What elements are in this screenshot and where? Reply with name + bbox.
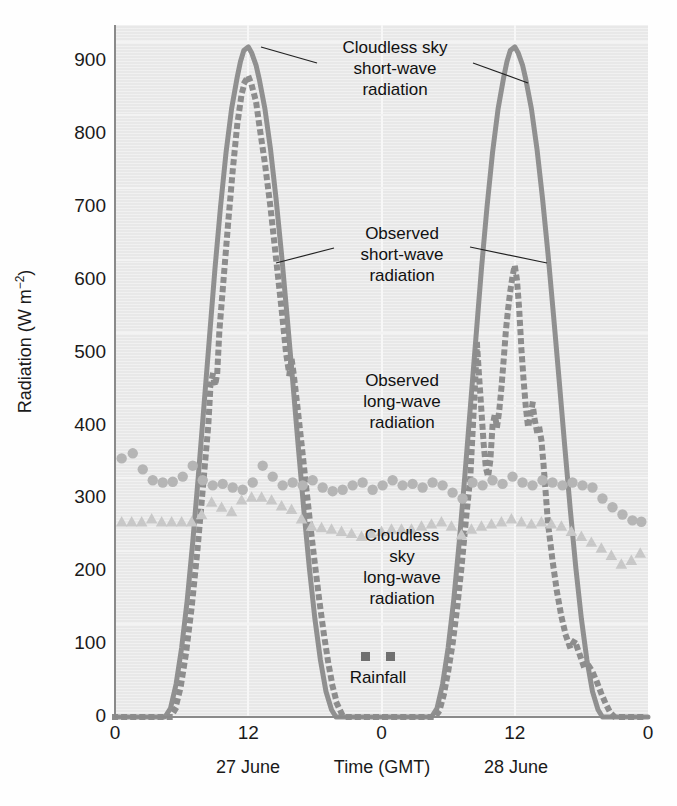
marker-circle-observed-long-wave bbox=[457, 493, 467, 503]
marker-triangle-cloudless-sky-long-wave bbox=[634, 547, 646, 557]
marker-circle-observed-long-wave bbox=[148, 475, 158, 485]
marker-triangle-cloudless-sky-long-wave bbox=[276, 500, 288, 510]
x-tick-0: 0 bbox=[95, 722, 135, 744]
marker-triangle-cloudless-sky-long-wave bbox=[326, 523, 338, 533]
y-tick-400: 400 bbox=[38, 414, 106, 436]
marker-circle-observed-long-wave bbox=[138, 464, 148, 474]
y-axis-title: Radiation (W m−2) bbox=[13, 232, 36, 452]
marker-triangle-cloudless-sky-long-wave bbox=[116, 516, 128, 526]
y-tick-500: 500 bbox=[38, 341, 106, 363]
marker-circle-observed-long-wave bbox=[247, 477, 257, 487]
marker-triangle-cloudless-sky-long-wave bbox=[266, 494, 278, 504]
y-axis-title-exponent: −2 bbox=[13, 276, 27, 290]
marker-circle-observed-long-wave bbox=[287, 477, 297, 487]
marker-triangle-cloudless-sky-long-wave bbox=[476, 520, 488, 530]
marker-circle-observed-long-wave bbox=[397, 480, 407, 490]
annotation-cloudless-sky-long-wave: Cloudless sky long-wave radiation bbox=[337, 525, 467, 609]
marker-circle-observed-long-wave bbox=[617, 509, 627, 519]
marker-circle-observed-long-wave bbox=[297, 480, 307, 490]
marker-triangle-cloudless-sky-long-wave bbox=[226, 506, 238, 516]
marker-triangle-cloudless-sky-long-wave bbox=[146, 513, 158, 523]
marker-circle-observed-long-wave bbox=[477, 480, 487, 490]
marker-circle-observed-long-wave bbox=[607, 502, 617, 512]
marker-circle-observed-long-wave bbox=[467, 477, 477, 487]
plot-area: Cloudless sky short-wave radiation Obser… bbox=[115, 25, 648, 717]
marker-circle-observed-long-wave bbox=[447, 487, 457, 497]
rainfall-legend-square-1 bbox=[361, 652, 370, 661]
marker-circle-observed-long-wave bbox=[218, 479, 228, 489]
marker-circle-observed-long-wave bbox=[168, 477, 178, 487]
marker-triangle-cloudless-sky-long-wave bbox=[166, 516, 178, 526]
radiation-chart-figure: 0100200300400500600700800900 Radiation (… bbox=[0, 0, 677, 806]
marker-circle-observed-long-wave bbox=[507, 471, 517, 481]
marker-circle-observed-long-wave bbox=[208, 480, 218, 490]
marker-circle-observed-long-wave bbox=[547, 477, 557, 487]
marker-circle-observed-long-wave bbox=[567, 477, 577, 487]
marker-circle-observed-long-wave bbox=[367, 485, 377, 495]
marker-circle-observed-long-wave bbox=[487, 475, 497, 485]
y-tick-600: 600 bbox=[38, 268, 106, 290]
marker-circle-observed-long-wave bbox=[497, 479, 507, 489]
marker-triangle-cloudless-sky-long-wave bbox=[516, 516, 528, 526]
marker-triangle-cloudless-sky-long-wave bbox=[246, 491, 258, 501]
x-tick-2: 0 bbox=[362, 722, 402, 744]
marker-circle-observed-long-wave bbox=[627, 515, 637, 525]
marker-circle-observed-long-wave bbox=[557, 480, 567, 490]
marker-circle-observed-long-wave bbox=[327, 486, 337, 496]
y-tick-200: 200 bbox=[38, 559, 106, 581]
marker-circle-observed-long-wave bbox=[116, 453, 126, 463]
marker-circle-observed-long-wave bbox=[517, 477, 527, 487]
marker-circle-observed-long-wave bbox=[427, 477, 437, 487]
y-axis-title-base: Radiation (W m bbox=[15, 289, 35, 413]
marker-circle-observed-long-wave bbox=[587, 482, 597, 492]
x-tick-3: 12 bbox=[495, 722, 535, 744]
marker-circle-observed-long-wave bbox=[407, 479, 417, 489]
marker-circle-observed-long-wave bbox=[357, 477, 367, 487]
marker-circle-observed-long-wave bbox=[257, 460, 267, 470]
x-tick-1: 12 bbox=[228, 722, 268, 744]
annotation-observed-short-wave: Observed short-wave radiation bbox=[337, 223, 467, 286]
y-tick-800: 800 bbox=[38, 122, 106, 144]
marker-triangle-cloudless-sky-long-wave bbox=[596, 542, 608, 552]
y-axis-line bbox=[114, 25, 116, 717]
y-tick-700: 700 bbox=[38, 195, 106, 217]
marker-circle-observed-long-wave bbox=[198, 475, 208, 485]
marker-circle-observed-long-wave bbox=[228, 482, 238, 492]
x-tick-4: 0 bbox=[628, 722, 668, 744]
marker-circle-observed-long-wave bbox=[437, 480, 447, 490]
marker-circle-observed-long-wave bbox=[577, 480, 587, 490]
marker-triangle-cloudless-sky-long-wave bbox=[486, 518, 498, 528]
marker-triangle-cloudless-sky-long-wave bbox=[576, 531, 588, 541]
marker-circle-observed-long-wave bbox=[267, 471, 277, 481]
marker-triangle-cloudless-sky-long-wave bbox=[216, 501, 228, 511]
marker-circle-observed-long-wave bbox=[387, 475, 397, 485]
y-tick-900: 900 bbox=[38, 49, 106, 71]
marker-triangle-cloudless-sky-long-wave bbox=[606, 549, 618, 559]
marker-circle-observed-long-wave bbox=[158, 477, 168, 487]
marker-circle-observed-long-wave bbox=[307, 475, 317, 485]
marker-triangle-cloudless-sky-long-wave bbox=[256, 491, 268, 501]
annotation-observed-long-wave: Observed long-wave radiation bbox=[337, 370, 467, 433]
marker-triangle-cloudless-sky-long-wave bbox=[286, 504, 298, 514]
marker-triangle-cloudless-sky-long-wave bbox=[556, 520, 568, 530]
marker-triangle-cloudless-sky-long-wave bbox=[616, 558, 628, 568]
marker-triangle-cloudless-sky-long-wave bbox=[586, 536, 598, 546]
marker-triangle-cloudless-sky-long-wave bbox=[236, 494, 248, 504]
marker-circle-observed-long-wave bbox=[238, 485, 248, 495]
y-axis-title-tail: ) bbox=[15, 270, 35, 276]
y-tick-300: 300 bbox=[38, 486, 106, 508]
marker-circle-observed-long-wave bbox=[277, 480, 287, 490]
rainfall-legend-label: Rainfall bbox=[318, 668, 438, 688]
annotation-cloudless-sky-short-wave: Cloudless sky short-wave radiation bbox=[320, 37, 470, 100]
marker-triangle-cloudless-sky-long-wave bbox=[526, 518, 538, 528]
marker-circle-observed-long-wave bbox=[128, 448, 138, 458]
marker-triangle-cloudless-sky-long-wave bbox=[156, 516, 168, 526]
marker-circle-observed-long-wave bbox=[377, 480, 387, 490]
marker-triangle-cloudless-sky-long-wave bbox=[316, 522, 328, 532]
marker-circle-observed-long-wave bbox=[337, 485, 347, 495]
marker-circle-observed-long-wave bbox=[636, 517, 646, 527]
y-tick-100: 100 bbox=[38, 632, 106, 654]
marker-triangle-cloudless-sky-long-wave bbox=[176, 516, 188, 526]
x-axis-line bbox=[115, 716, 649, 718]
marker-triangle-cloudless-sky-long-wave bbox=[206, 496, 218, 506]
